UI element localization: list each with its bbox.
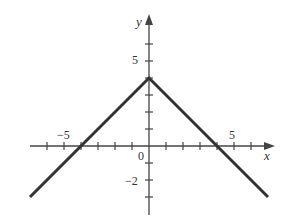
x-axis-label: x (263, 148, 270, 163)
origin-label: 0 (138, 149, 144, 163)
x-tick-label-neg5: −5 (57, 128, 70, 142)
y-axis-label: y (134, 14, 142, 29)
y-axis-arrow-icon (145, 14, 153, 25)
y-tick-label-5: 5 (132, 53, 138, 67)
x-tick-label-5: 5 (229, 128, 235, 142)
chart: y x 0 −5 5 5 −2 (0, 0, 288, 223)
y-tick-label-neg2: −2 (125, 174, 138, 188)
